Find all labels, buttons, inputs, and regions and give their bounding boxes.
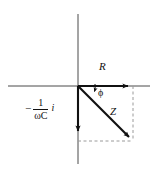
resistance-label: R [99, 61, 106, 72]
reactance-minus-sign: − [25, 103, 31, 114]
reactance-denominator: ωC [33, 110, 48, 121]
reactance-fraction: 1 ωC [33, 98, 48, 121]
impedance-vector [78, 86, 129, 137]
reactance-numerator: 1 [36, 98, 45, 109]
imaginary-unit-label: i [51, 103, 54, 113]
impedance-label: Z [110, 106, 116, 117]
reactance-label: − 1 ωC i [25, 98, 54, 121]
phasor-diagram-figure: R Z ϕ − 1 ωC i [0, 0, 153, 169]
phase-angle-label: ϕ [98, 88, 103, 98]
phasor-diagram-canvas [0, 0, 153, 169]
